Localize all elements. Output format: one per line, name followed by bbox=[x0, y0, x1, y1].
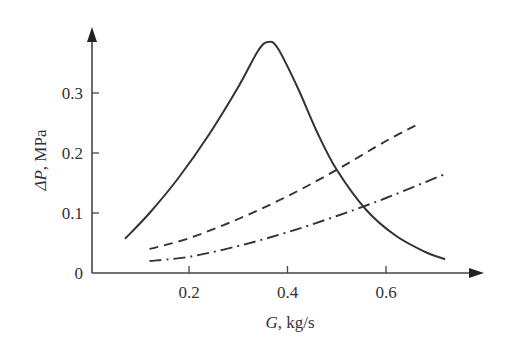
y-tick-label: 0 bbox=[75, 264, 84, 283]
y-axis-title: ΔP, MPa bbox=[31, 129, 50, 191]
series-solid-line bbox=[125, 42, 445, 260]
chart: 0.20.40.600.10.20.3 G, kg/s ΔP, MPa bbox=[0, 0, 507, 348]
series bbox=[125, 42, 445, 261]
x-axis-title: G, kg/s bbox=[265, 313, 314, 332]
series-dashed-line bbox=[150, 123, 421, 249]
x-tick-label: 0.4 bbox=[277, 283, 299, 302]
x-tick-label: 0.2 bbox=[178, 283, 199, 302]
ticks: 0.20.40.600.10.20.3 bbox=[62, 84, 397, 302]
y-axis-arrow-icon bbox=[87, 27, 97, 42]
y-tick-label: 0.3 bbox=[62, 84, 83, 103]
series-dash-dot-line bbox=[150, 174, 446, 261]
x-axis-arrow-icon bbox=[469, 268, 484, 278]
x-tick-label: 0.6 bbox=[375, 283, 396, 302]
y-tick-label: 0.1 bbox=[62, 204, 83, 223]
y-tick-label: 0.2 bbox=[62, 144, 83, 163]
